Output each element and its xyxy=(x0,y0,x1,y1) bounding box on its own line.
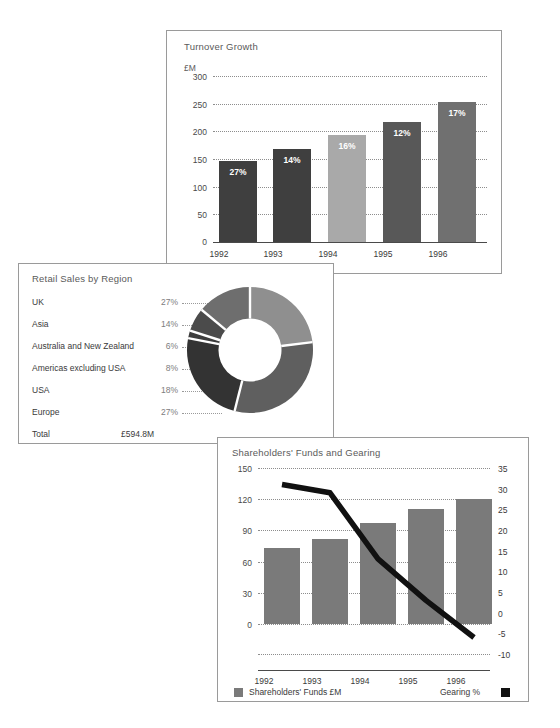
shf-xtick-1995: 1995 xyxy=(390,676,426,686)
legend-label-shareholders-funds: Shareholders' Funds £M xyxy=(249,687,341,697)
shf-baseline xyxy=(258,670,490,671)
retail-total-label: Total xyxy=(32,429,50,439)
shf-y2tick-30: 30 xyxy=(498,485,524,495)
donut-slice-uk xyxy=(250,287,313,346)
shf-y2tick-20: 20 xyxy=(498,526,524,536)
turnover-plot-area: 27% 14% 16% 12% 17% xyxy=(213,76,487,242)
gearing-line-series xyxy=(258,468,490,654)
bar-1995: 12% xyxy=(383,122,421,242)
retail-total-value: £594.8M xyxy=(121,429,154,439)
donut-slice-usa xyxy=(187,338,242,411)
shf-chart-title: Shareholders' Funds and Gearing xyxy=(232,447,381,458)
bar-1993: 14% xyxy=(273,149,311,242)
bar-label-1995: 12% xyxy=(383,128,421,138)
ytick-50: 50 xyxy=(181,210,207,220)
shf-y2tick-25: 25 xyxy=(498,505,524,515)
ytick-150: 150 xyxy=(181,155,207,165)
turnover-baseline xyxy=(213,242,487,243)
shf-y2tick-minus10: -10 xyxy=(498,650,524,660)
ytick-300: 300 xyxy=(181,72,207,82)
xtick-1993: 1993 xyxy=(254,249,292,259)
shf-ytick-30: 30 xyxy=(226,589,252,599)
xtick-1996: 1996 xyxy=(419,249,457,259)
shf-y2tick-10: 10 xyxy=(498,567,524,577)
xtick-1995: 1995 xyxy=(364,249,402,259)
turnover-chart-title: Turnover Growth xyxy=(184,41,258,52)
region-label-usa: USA xyxy=(32,385,49,395)
shf-gridline-minus10 xyxy=(258,654,490,655)
xtick-1994: 1994 xyxy=(309,249,347,259)
ytick-250: 250 xyxy=(181,100,207,110)
shf-xtick-1993: 1993 xyxy=(294,676,330,686)
shf-y2tick-minus5: -5 xyxy=(498,629,524,639)
shf-y2tick-15: 15 xyxy=(498,547,524,557)
legend-swatch-shareholders-funds xyxy=(234,688,243,697)
shf-y2tick-0: 0 xyxy=(498,609,524,619)
bar-1992: 27% xyxy=(219,161,257,242)
bar-label-1993: 14% xyxy=(273,155,311,165)
shf-ytick-90: 90 xyxy=(226,526,252,536)
retail-donut-chart xyxy=(175,275,325,425)
bar-1994: 16% xyxy=(328,135,366,242)
shf-plot-area xyxy=(258,468,490,654)
legend-label-gearing: Gearing % xyxy=(440,687,480,697)
shareholders-funds-gearing-card: Shareholders' Funds and Gearing 150 120 … xyxy=(217,437,529,702)
gridline-300 xyxy=(213,76,487,77)
legend-swatch-gearing xyxy=(501,688,510,697)
shf-xtick-1996: 1996 xyxy=(438,676,474,686)
ytick-200: 200 xyxy=(181,127,207,137)
bar-1996: 17% xyxy=(438,102,476,242)
shf-ytick-150: 150 xyxy=(226,464,252,474)
retail-sales-card: Retail Sales by Region UK 27% Asia 14% A… xyxy=(18,263,334,444)
xtick-1992: 1992 xyxy=(200,249,238,259)
donut-slice-europe xyxy=(235,342,313,413)
shf-ytick-120: 120 xyxy=(226,495,252,505)
region-label-uk: UK xyxy=(32,297,44,307)
retail-chart-title: Retail Sales by Region xyxy=(32,273,133,284)
shf-ytick-0: 0 xyxy=(226,620,252,630)
shf-y2tick-35: 35 xyxy=(498,464,524,474)
region-label-americas-excluding-usa: Americas excluding USA xyxy=(32,363,126,373)
shf-ytick-60: 60 xyxy=(226,558,252,568)
bar-label-1992: 27% xyxy=(219,167,257,177)
ytick-100: 100 xyxy=(181,183,207,193)
region-label-europe: Europe xyxy=(32,407,59,417)
shf-xtick-1992: 1992 xyxy=(246,676,282,686)
bar-label-1996: 17% xyxy=(438,108,476,118)
bar-label-1994: 16% xyxy=(328,141,366,151)
region-label-asia: Asia xyxy=(32,319,49,329)
turnover-growth-card: Turnover Growth £M 27% 14% 16% 12% 17% 3… xyxy=(166,30,502,274)
region-label-australia-new-zealand: Australia and New Zealand xyxy=(32,341,134,351)
shf-xtick-1994: 1994 xyxy=(342,676,378,686)
ytick-0: 0 xyxy=(181,237,207,247)
shf-y2tick-5: 5 xyxy=(498,588,524,598)
